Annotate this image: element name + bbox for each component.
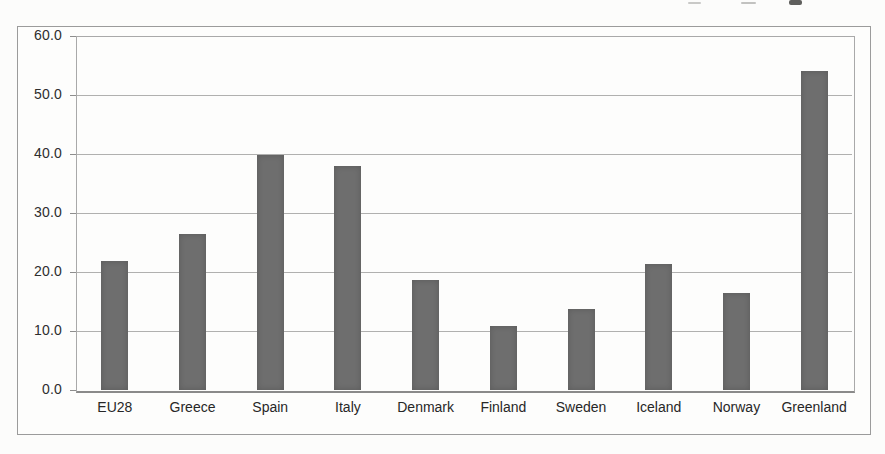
y-axis-label: 50.0 xyxy=(14,86,62,102)
bar-finland xyxy=(490,326,517,390)
y-axis-tick xyxy=(70,390,76,391)
y-axis-label: 0.0 xyxy=(14,381,62,397)
y-axis-label: 20.0 xyxy=(14,263,62,279)
y-axis-tick xyxy=(70,154,76,155)
bar-norway xyxy=(723,293,750,390)
x-axis-label: Greece xyxy=(154,399,232,415)
gridline xyxy=(77,154,852,155)
y-axis-label: 10.0 xyxy=(14,322,62,338)
x-axis-label: Greenland xyxy=(775,399,853,415)
bar-greece xyxy=(179,234,206,390)
bar-sweden xyxy=(568,309,595,390)
bar-spain xyxy=(257,155,284,390)
bar-greenland xyxy=(801,71,828,390)
x-axis-label: Sweden xyxy=(542,399,620,415)
cutoff-text-fragment xyxy=(688,2,701,4)
bar-iceland xyxy=(645,264,672,390)
bar-denmark xyxy=(412,280,439,390)
y-axis-tick xyxy=(70,213,76,214)
scanned-page: 0.010.020.030.040.050.060.0EU28GreeceSpa… xyxy=(0,0,885,454)
x-axis-label: Finland xyxy=(465,399,543,415)
x-axis-label: Spain xyxy=(231,399,309,415)
bar-eu28 xyxy=(101,261,128,390)
x-axis-label: Norway xyxy=(698,399,776,415)
y-axis-label: 30.0 xyxy=(14,204,62,220)
y-axis-label: 40.0 xyxy=(14,145,62,161)
cutoff-text-fragment xyxy=(741,2,756,4)
x-axis-label: EU28 xyxy=(76,399,154,415)
y-axis-label: 60.0 xyxy=(14,27,62,43)
x-axis-label: Denmark xyxy=(387,399,465,415)
x-axis-label: Iceland xyxy=(620,399,698,415)
bar-italy xyxy=(334,166,361,390)
y-axis-tick xyxy=(70,95,76,96)
y-axis-tick xyxy=(70,272,76,273)
gridline xyxy=(77,95,852,96)
x-axis-label: Italy xyxy=(309,399,387,415)
gridline xyxy=(77,213,852,214)
y-axis-tick xyxy=(70,331,76,332)
y-axis-tick xyxy=(70,36,76,37)
cutoff-text-fragment xyxy=(789,0,802,5)
